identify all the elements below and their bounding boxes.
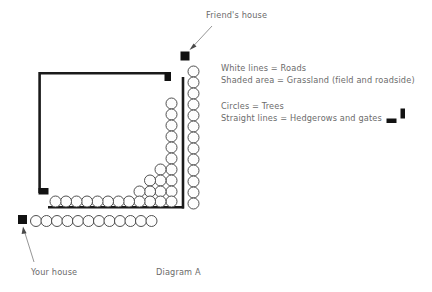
tree (188, 121, 199, 132)
gate-top-right (165, 72, 172, 81)
gate-bar-vertical-icon (401, 109, 406, 119)
tree (188, 165, 199, 176)
arrow-icon (22, 227, 27, 235)
friends-house-label: Friend's house (206, 10, 267, 20)
your-house-marker (18, 215, 27, 224)
friends-house-marker (181, 52, 190, 61)
tree (188, 132, 199, 143)
tree (166, 131, 177, 142)
diagram-canvas: Friend's house White lines = Roads Shade… (0, 0, 432, 292)
figure-caption: Diagram A (156, 267, 201, 277)
your-house-arrow (22, 227, 34, 263)
tree (188, 154, 199, 165)
tree (50, 196, 61, 207)
tree (73, 216, 84, 227)
tree (188, 77, 199, 88)
tree (155, 175, 166, 186)
map-diagram-svg: Friend's house White lines = Roads Shade… (0, 0, 432, 292)
tree (166, 120, 177, 131)
tree (166, 109, 177, 120)
tree (155, 196, 166, 207)
legend-gate-symbols (387, 109, 406, 124)
gate-bar-horizontal-icon (387, 119, 397, 124)
tree (134, 186, 145, 197)
tree (188, 187, 199, 198)
tree (145, 186, 156, 197)
tree (71, 196, 82, 207)
tree (188, 198, 199, 209)
tree (188, 66, 199, 77)
tree (166, 142, 177, 153)
friends-house-arrow (190, 26, 213, 50)
tree (83, 216, 94, 227)
gate-bottom-left (39, 188, 49, 195)
tree (31, 216, 42, 227)
tree (41, 216, 52, 227)
tree (134, 196, 145, 207)
tree (61, 196, 72, 207)
tree (166, 164, 177, 175)
tree (145, 175, 156, 186)
tree (188, 110, 199, 121)
tree (62, 216, 73, 227)
tree (103, 196, 114, 207)
tree (166, 175, 177, 186)
tree (82, 196, 93, 207)
tree (94, 216, 105, 227)
tree (145, 196, 156, 207)
tree (166, 153, 177, 164)
tree (166, 196, 177, 207)
tree (155, 186, 166, 197)
tree (136, 216, 147, 227)
legend-line-grassland: Shaded area = Grassland (field and roads… (221, 75, 415, 85)
legend-line-hedgerows: Straight lines = Hedgerows and gates (221, 113, 382, 123)
tree-group (31, 66, 200, 227)
legend-line-roads: White lines = Roads (221, 63, 306, 73)
tree (188, 88, 199, 99)
legend-line-trees: Circles = Trees (221, 101, 284, 111)
tree (146, 216, 157, 227)
tree (125, 216, 136, 227)
tree (166, 186, 177, 197)
tree (115, 216, 126, 227)
tree (188, 99, 199, 110)
tree (188, 176, 199, 187)
tree (52, 216, 63, 227)
tree (188, 143, 199, 154)
tree (166, 98, 177, 109)
tree (92, 196, 103, 207)
tree (124, 196, 135, 207)
tree (113, 196, 124, 207)
tree (155, 164, 166, 175)
your-house-label: Your house (30, 267, 77, 277)
tree (104, 216, 115, 227)
